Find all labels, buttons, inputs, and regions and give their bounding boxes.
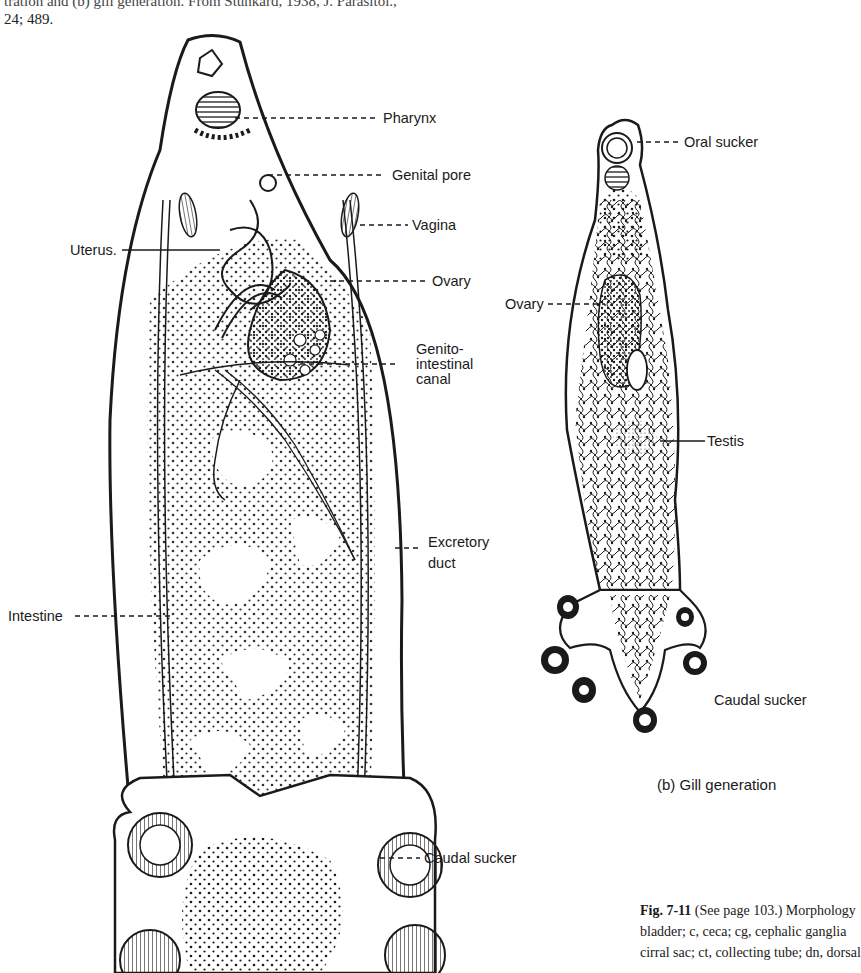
label-uterus: Uterus.	[70, 242, 117, 258]
label-excretory-duct-line-1: Excretory	[428, 534, 489, 550]
label-excretory-duct-line-2: duct	[428, 555, 455, 571]
label-genital-pore: Genital pore	[392, 167, 471, 183]
figure-caption-line-3: cirral sac; ct, collecting tube; dn, dor…	[640, 942, 861, 963]
label-caudal-sucker-b: Caudal sucker	[714, 692, 807, 708]
label-caudal-sucker-a: Caudal sucker	[424, 850, 517, 866]
label-excretory-duct: Excretory duct	[428, 532, 489, 574]
label-testis: Testis	[707, 433, 744, 449]
label-oral-sucker: Oral sucker	[684, 134, 758, 150]
subcaption-b: (b) Gill generation	[657, 776, 776, 793]
label-genito-intestinal-line-3: canal	[416, 371, 451, 387]
figure-caption-line-2: bladder; c, ceca; cg, cephalic ganglia	[640, 921, 861, 942]
label-vagina: Vagina	[412, 217, 456, 233]
label-genito-intestinal-line-2: intestinal	[416, 356, 473, 372]
caudal-sucker-a-left	[128, 813, 192, 877]
figure-caption-line-1: Fig. 7-11 (See page 103.) Morphology	[640, 900, 861, 921]
figure-a-body	[75, 35, 445, 973]
label-ovary-a: Ovary	[432, 273, 471, 289]
figure-b-body	[541, 120, 707, 733]
label-ovary-b: Ovary	[505, 296, 544, 312]
label-pharynx: Pharynx	[383, 110, 436, 126]
figure-caption: Fig. 7-11 (See page 103.) Morphology bla…	[640, 900, 861, 963]
figure-caption-line-1-rest: (See page 103.) Morphology	[691, 903, 855, 918]
figure-number: Fig. 7-11	[640, 903, 691, 918]
label-genito-intestinal-line-1: Genito-	[416, 341, 464, 357]
label-intestine: Intestine	[8, 608, 63, 624]
label-genito-intestinal: Genito- intestinal canal	[416, 342, 473, 387]
